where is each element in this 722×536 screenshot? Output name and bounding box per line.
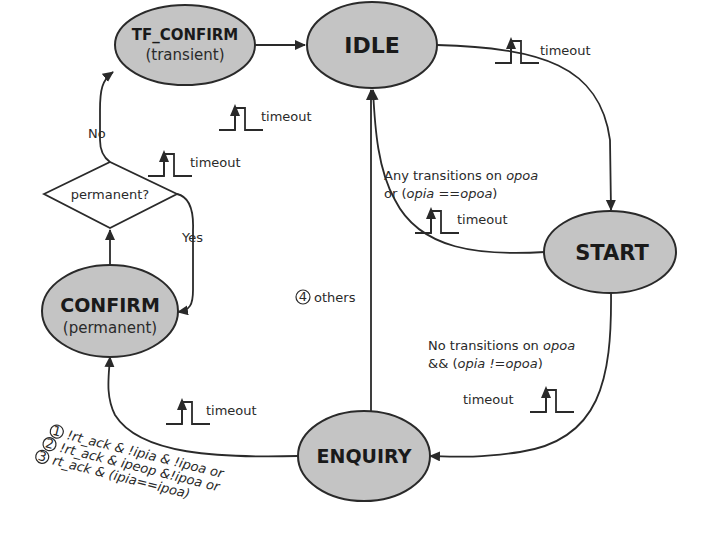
state-confirm-label: CONFIRM: [60, 294, 160, 316]
state-tf-confirm-label: TF_CONFIRM: [132, 26, 239, 44]
condition-list: 1 !rt_ack & !ipia & !ipoa or 2 !rt_ack &…: [34, 420, 227, 508]
state-start[interactable]: START: [544, 211, 676, 293]
edge-decision-yes: [177, 194, 193, 312]
state-diagram: TF_CONFIRM (transient) IDLE START ENQUIR…: [0, 0, 722, 536]
decision-label: permanent?: [71, 187, 149, 202]
timeout-label: timeout: [463, 392, 514, 407]
state-enquiry[interactable]: ENQUIRY: [298, 411, 430, 501]
start-idle-condition-line2: or (opia ==opoa): [384, 186, 497, 201]
pulse-icon: [530, 386, 574, 412]
pulse-icon: [219, 104, 263, 130]
others-label: others: [314, 290, 356, 305]
state-confirm-sublabel: (permanent): [63, 319, 157, 337]
decision-yes-label: Yes: [181, 230, 203, 245]
state-confirm[interactable]: CONFIRM (permanent): [42, 265, 178, 357]
pulse-icon: [415, 207, 459, 233]
timeout-label: timeout: [261, 109, 312, 124]
timeout-label: timeout: [190, 155, 241, 170]
edge-start-to-enquiry: [430, 292, 611, 457]
timeout-tfconfirm-idle: timeout: [219, 104, 312, 130]
edge-enquiry-to-confirm: [108, 357, 298, 456]
condition-number: 4: [299, 289, 307, 304]
pulse-icon: [166, 398, 210, 424]
state-idle[interactable]: IDLE: [307, 2, 437, 88]
timeout-label: timeout: [206, 403, 257, 418]
label-enquiry-to-confirm: timeout 1 !rt_ack & !ipia & !ipoa or 2 !…: [34, 398, 257, 508]
start-enquiry-condition-line1: No transitions on opoa: [428, 338, 575, 353]
state-tf-confirm-sublabel: (transient): [145, 46, 224, 64]
label-enquiry-to-idle: 4 others: [296, 289, 356, 305]
timeout-label: timeout: [540, 43, 591, 58]
state-enquiry-label: ENQUIRY: [317, 445, 412, 467]
start-idle-condition-line1: Any transitions on opoa: [384, 168, 538, 183]
decision-no-label: No: [88, 126, 106, 141]
timeout-confirm-decision: timeout: [148, 150, 241, 176]
pulse-icon: [148, 150, 192, 176]
start-enquiry-condition-line2: && (opia !=opoa): [428, 356, 543, 371]
edge-decision-no: [100, 72, 113, 162]
timeout-label: timeout: [457, 212, 508, 227]
state-idle-label: IDLE: [344, 33, 400, 58]
label-start-to-idle: Any transitions on opoa or (opia ==opoa)…: [384, 168, 538, 233]
decision-permanent[interactable]: permanent?: [44, 162, 177, 228]
state-tf-confirm[interactable]: TF_CONFIRM (transient): [115, 5, 255, 85]
state-start-label: START: [575, 241, 649, 265]
label-start-to-enquiry: No transitions on opoa && (opia !=opoa) …: [428, 338, 575, 412]
